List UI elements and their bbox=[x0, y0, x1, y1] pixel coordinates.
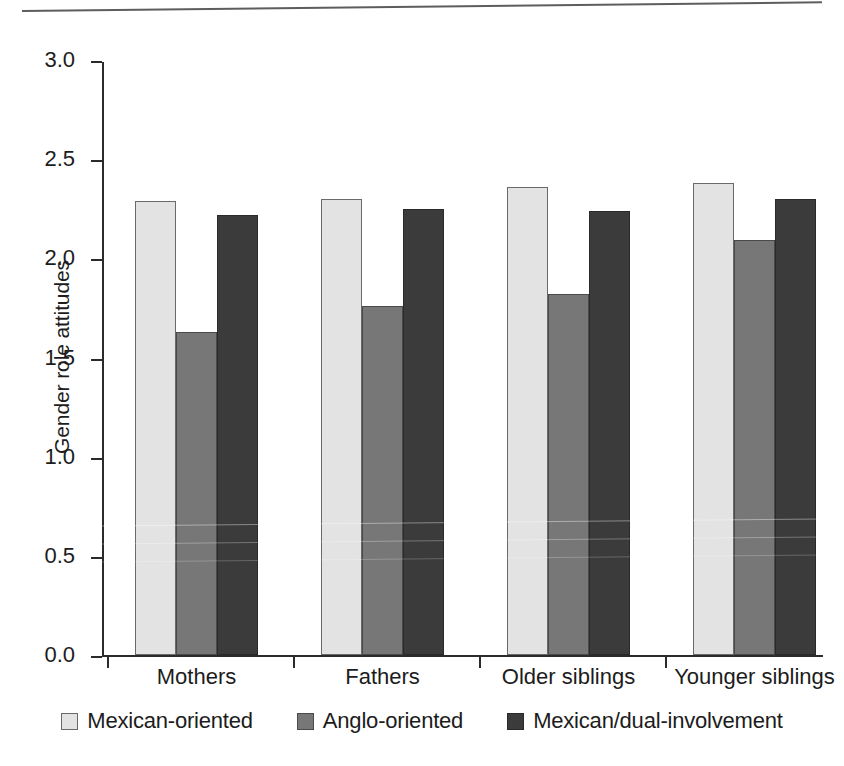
legend-swatch-icon bbox=[297, 713, 314, 730]
bar bbox=[403, 209, 444, 655]
bar bbox=[548, 294, 589, 655]
y-axis-tick: 1.0 bbox=[91, 458, 102, 460]
y-axis-tick: 0.0 bbox=[91, 656, 102, 658]
y-axis-tick-label: 1.5 bbox=[44, 345, 75, 371]
bar bbox=[734, 240, 775, 655]
plot-area: 3.02.52.01.51.00.50.0 bbox=[102, 62, 823, 657]
x-axis-category-label: Mothers bbox=[157, 664, 236, 690]
y-axis-tick: 2.0 bbox=[91, 259, 102, 261]
top-horizontal-rule bbox=[22, 1, 822, 12]
y-axis-tick: 3.0 bbox=[91, 61, 102, 63]
y-axis-tick: 2.5 bbox=[91, 160, 102, 162]
x-axis-category-label: Younger siblings bbox=[674, 664, 835, 690]
legend-label: Mexican-oriented bbox=[87, 708, 253, 734]
x-axis-line bbox=[102, 655, 823, 657]
x-axis-category-label: Older siblings bbox=[502, 664, 635, 690]
y-axis-tick-label: 2.0 bbox=[44, 246, 75, 272]
y-axis-line bbox=[102, 62, 104, 657]
legend-swatch-icon bbox=[507, 713, 524, 730]
y-axis-tick-label: 1.0 bbox=[44, 444, 75, 470]
bar bbox=[362, 306, 403, 655]
bar bbox=[176, 332, 217, 655]
y-axis-tick-label: 0.0 bbox=[44, 642, 75, 668]
bar bbox=[693, 183, 734, 655]
y-axis-tick-label: 3.0 bbox=[44, 47, 75, 73]
y-axis-tick: 1.5 bbox=[91, 359, 102, 361]
legend-swatch-icon bbox=[61, 713, 78, 730]
legend-label: Mexican/dual-involvement bbox=[533, 708, 783, 734]
x-axis-tick bbox=[293, 657, 295, 668]
y-axis-tick-label: 2.5 bbox=[44, 147, 75, 173]
legend-item: Mexican/dual-involvement bbox=[507, 708, 783, 734]
legend-item: Anglo-oriented bbox=[297, 708, 463, 734]
bar bbox=[507, 187, 548, 655]
chart-figure: Gender role attitudes 3.02.52.01.51.00.5… bbox=[0, 0, 844, 766]
bar bbox=[321, 199, 362, 655]
y-axis-tick: 0.5 bbox=[91, 557, 102, 559]
x-axis-tick bbox=[479, 657, 481, 668]
x-axis-category-label: Fathers bbox=[345, 664, 420, 690]
y-axis-tick-label: 0.5 bbox=[44, 543, 75, 569]
bar bbox=[589, 211, 630, 655]
chart-legend: Mexican-orientedAnglo-orientedMexican/du… bbox=[0, 708, 844, 734]
bar bbox=[135, 201, 176, 655]
x-axis-tick bbox=[107, 657, 109, 668]
bar bbox=[775, 199, 816, 655]
legend-label: Anglo-oriented bbox=[323, 708, 463, 734]
legend-item: Mexican-oriented bbox=[61, 708, 253, 734]
x-axis-tick bbox=[665, 657, 667, 668]
bar bbox=[217, 215, 258, 655]
